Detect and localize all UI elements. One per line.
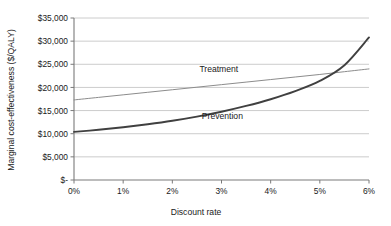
series-label-prevention: Prevention <box>202 111 243 121</box>
y-tick-label: $20,000 <box>38 83 69 93</box>
y-tick-label: $15,000 <box>38 106 69 116</box>
y-tick-label: $25,000 <box>38 59 69 69</box>
y-tick-label: $35,000 <box>38 13 69 23</box>
y-tick-label: $30,000 <box>38 36 69 46</box>
y-tick-label: $- <box>61 175 69 185</box>
y-tick-label: $10,000 <box>38 129 69 139</box>
y-axis-title: Marginal cost-effectiveness ($/QALY) <box>6 29 16 171</box>
line-chart: $-$5,000$10,000$15,000$20,000$25,000$30,… <box>0 0 391 226</box>
x-tick-label: 6% <box>363 186 376 196</box>
x-tick-label: 4% <box>265 186 278 196</box>
x-tick-label: 5% <box>314 186 327 196</box>
x-tick-label: 0% <box>68 186 81 196</box>
x-tick-label: 1% <box>117 186 130 196</box>
x-tick-label: 2% <box>166 186 179 196</box>
x-axis-title: Discount rate <box>171 207 222 217</box>
chart-container: $-$5,000$10,000$15,000$20,000$25,000$30,… <box>0 0 391 226</box>
x-tick-label: 3% <box>215 186 228 196</box>
y-tick-label: $5,000 <box>42 152 68 162</box>
series-label-treatment: Treatment <box>199 64 238 74</box>
